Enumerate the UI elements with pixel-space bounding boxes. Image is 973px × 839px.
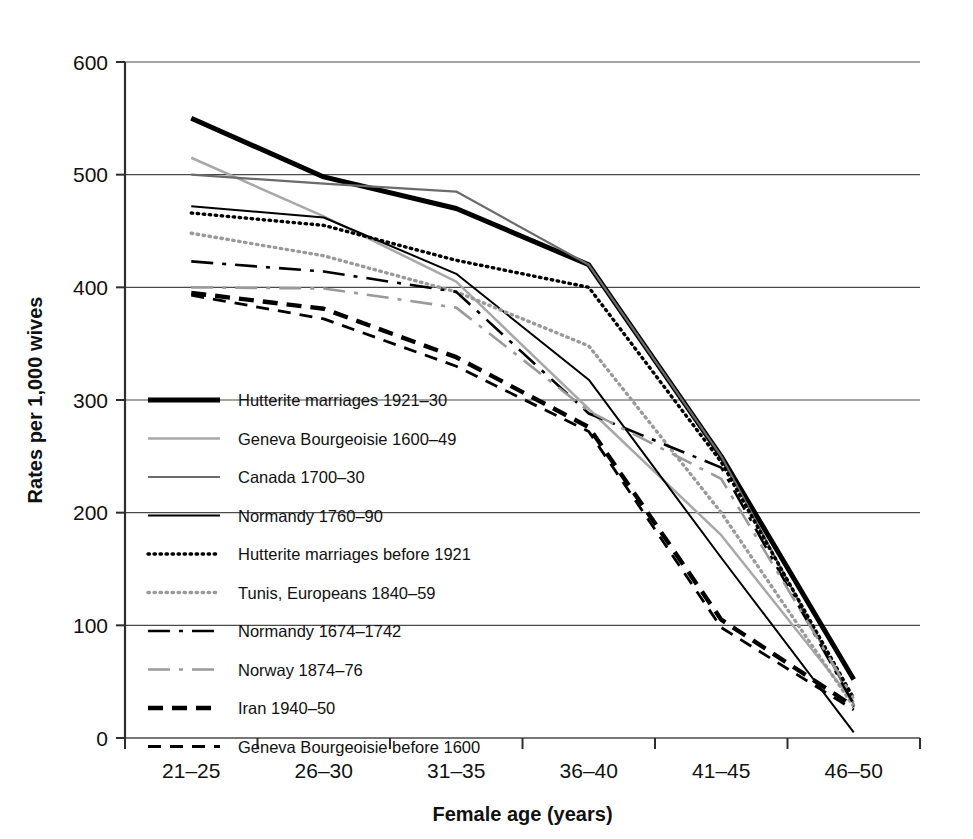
- line-chart: 010020030040050060021–2526–3031–3536–404…: [0, 0, 973, 839]
- y-tick-label: 0: [96, 727, 108, 750]
- legend-label-3: Normandy 1760–90: [238, 507, 383, 525]
- y-tick-label: 400: [73, 276, 108, 299]
- chart-container: 010020030040050060021–2526–3031–3536–404…: [0, 0, 973, 839]
- legend-label-7: Norway 1874–76: [238, 661, 363, 679]
- y-tick-label: 500: [73, 163, 108, 186]
- y-axis-title: Rates per 1,000 wives: [24, 297, 46, 504]
- x-tick-label: 21–25: [162, 759, 220, 782]
- legend-label-0: Hutterite marriages 1921–30: [238, 391, 447, 409]
- y-tick-label: 300: [73, 389, 108, 412]
- y-tick-label: 200: [73, 501, 108, 524]
- x-axis-title: Female age (years): [432, 803, 612, 825]
- x-tick-label: 46–50: [825, 759, 883, 782]
- y-tick-label: 600: [73, 51, 108, 74]
- y-axis: 0100200300400500600: [73, 51, 125, 750]
- x-tick-label: 26–30: [295, 759, 353, 782]
- legend-label-1: Geneva Bourgeoisie 1600–49: [238, 430, 456, 448]
- series-line-9: [191, 295, 854, 710]
- series-line-8: [191, 293, 854, 706]
- legend-label-9: Geneva Bourgeoisie before 1600: [238, 738, 480, 756]
- legend-label-2: Canada 1700–30: [238, 468, 365, 486]
- series-group: [191, 118, 854, 732]
- legend: Hutterite marriages 1921–30Geneva Bourge…: [148, 391, 480, 756]
- x-tick-label: 36–40: [560, 759, 618, 782]
- legend-label-5: Tunis, Europeans 1840–59: [238, 584, 436, 602]
- legend-label-8: Iran 1940–50: [238, 699, 335, 717]
- x-tick-label: 31–35: [427, 759, 485, 782]
- y-tick-label: 100: [73, 614, 108, 637]
- legend-label-6: Normandy 1674–1742: [238, 622, 401, 640]
- x-tick-label: 41–45: [692, 759, 750, 782]
- legend-label-4: Hutterite marriages before 1921: [238, 545, 471, 563]
